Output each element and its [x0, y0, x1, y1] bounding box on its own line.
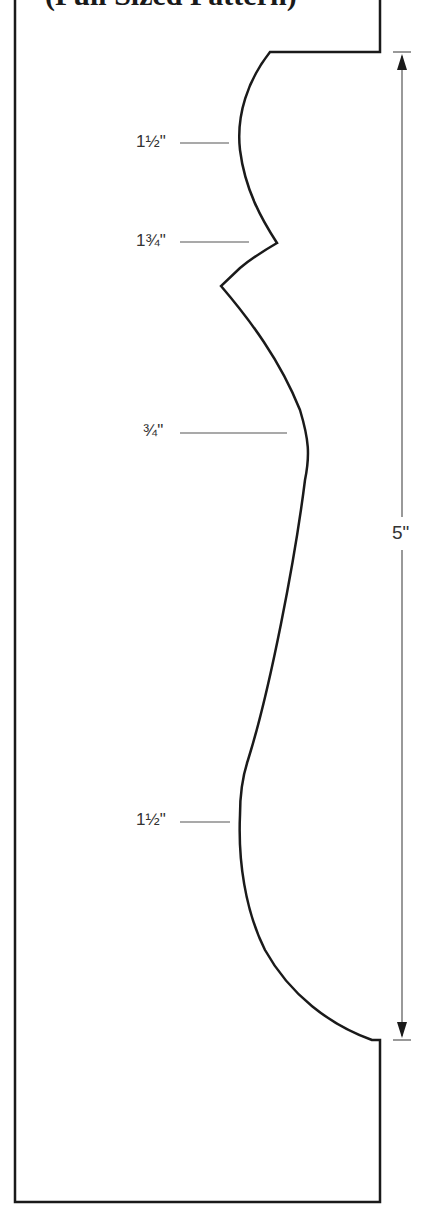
- dimension-label-height: 5": [392, 522, 409, 544]
- arrow-up-icon: [397, 54, 407, 70]
- molding-profile-diagram: [0, 0, 442, 1224]
- label-radius-top: 1½": [136, 132, 166, 152]
- label-radius-middle: ¾": [143, 421, 163, 441]
- label-radius-bottom: 1½": [136, 810, 166, 830]
- label-radius-point: 1¾": [136, 231, 166, 251]
- arrow-down-icon: [397, 1022, 407, 1038]
- profile-outline: [15, 0, 380, 1202]
